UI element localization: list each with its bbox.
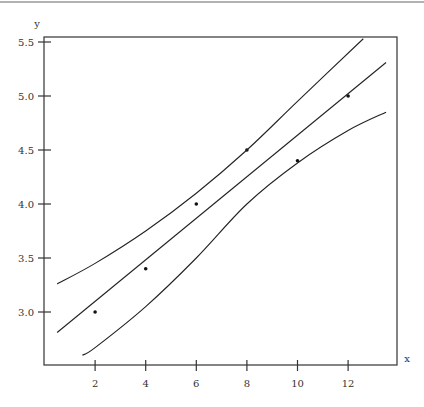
x-axis-label: x (404, 353, 410, 364)
y-tick-label: 3.0 (18, 307, 34, 318)
x-tick-label: 6 (193, 378, 199, 389)
x-tick-label: 12 (342, 378, 355, 389)
y-tick-label: 4.5 (18, 145, 34, 156)
chart: y x 3.03.54.04.55.05.5 24681012 (0, 0, 424, 407)
y-axis-label: y (33, 18, 40, 29)
data-point (93, 310, 97, 314)
y-tick-label: 5.0 (18, 91, 34, 102)
y-tick-label: 4.0 (18, 199, 34, 210)
x-tick-label: 2 (92, 378, 98, 389)
regression-line (57, 63, 386, 333)
series-layer (57, 39, 386, 355)
x-axis-ticks: 24681012 (92, 360, 355, 389)
lower-confidence-band (82, 112, 386, 355)
x-tick-label: 8 (244, 378, 250, 389)
y-tick-label: 5.5 (18, 37, 34, 48)
plot-frame (44, 37, 397, 365)
data-point (195, 202, 199, 206)
upper-confidence-band (57, 39, 363, 284)
data-point (144, 267, 148, 271)
x-tick-label: 10 (291, 378, 304, 389)
x-tick-label: 4 (143, 378, 149, 389)
y-axis-ticks: 3.03.54.04.55.05.5 (18, 37, 51, 318)
y-tick-label: 3.5 (18, 253, 34, 264)
